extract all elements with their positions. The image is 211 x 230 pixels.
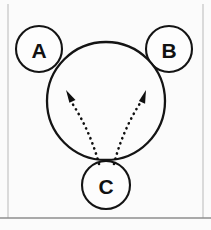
central-circle[interactable] bbox=[47, 42, 165, 160]
node-label-c: C bbox=[98, 175, 113, 198]
figure-container: A B C bbox=[0, 0, 211, 230]
node-label-b: B bbox=[161, 39, 176, 62]
diagram-canvas: A B C bbox=[0, 0, 211, 230]
node-label-a: A bbox=[31, 39, 46, 62]
